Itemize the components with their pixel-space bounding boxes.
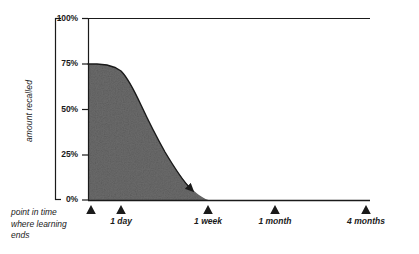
x-tick-label-4-months: 4 months (347, 216, 385, 226)
x-marker-1 (116, 205, 126, 214)
y-tick-label-0: 0% (48, 195, 78, 204)
area-fill-path (88, 64, 209, 200)
y-axis-title: amount recalled (24, 66, 34, 156)
forgetting-curve-figure: 100% 75% 50% 25% 0% amount recalled 1 da… (0, 0, 419, 254)
x-tick-markers (86, 205, 371, 214)
x-marker-4 (361, 205, 371, 214)
x-marker-2 (203, 205, 213, 214)
origin-caption: point in time where learning ends (11, 207, 89, 242)
origin-caption-line-2: where learning (11, 219, 89, 231)
y-tick-label-75: 75% (48, 59, 78, 68)
x-tick-label-1-month: 1 month (258, 216, 291, 226)
x-marker-3 (270, 205, 280, 214)
x-tick-label-1-day: 1 day (110, 216, 132, 226)
origin-caption-line-3: ends (11, 230, 89, 242)
origin-caption-line-1: point in time (11, 207, 89, 219)
y-tick-label-25: 25% (48, 150, 78, 159)
y-tick-label-100: 100% (48, 14, 78, 23)
x-tick-label-1-week: 1 week (194, 216, 222, 226)
y-tick-label-50: 50% (48, 105, 78, 114)
area-series-amount-recalled (88, 64, 209, 200)
y-tick-marks (82, 19, 88, 201)
